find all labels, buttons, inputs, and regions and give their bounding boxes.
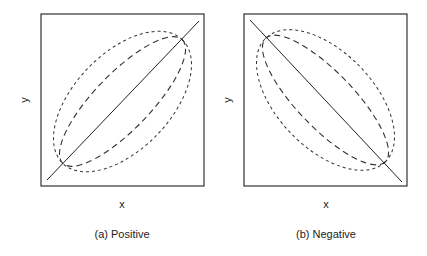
panel-b-ylabel: y — [221, 97, 233, 103]
panel-a-ylabel: y — [18, 97, 30, 103]
panel-b: x y (b) Negative — [221, 5, 420, 240]
panel-b-caption: (b) Negative — [296, 228, 356, 240]
panel-a-regression-line — [47, 21, 199, 180]
panel-b-regression-line — [250, 20, 402, 182]
panel-a-caption: (a) Positive — [94, 228, 149, 240]
panel-a-xlabel: x — [119, 198, 125, 210]
panel-b-xlabel: x — [323, 198, 329, 210]
panel-a: x y (a) Positive — [18, 6, 217, 240]
figure: x y (a) Positive x y (b) Negative — [0, 0, 427, 256]
